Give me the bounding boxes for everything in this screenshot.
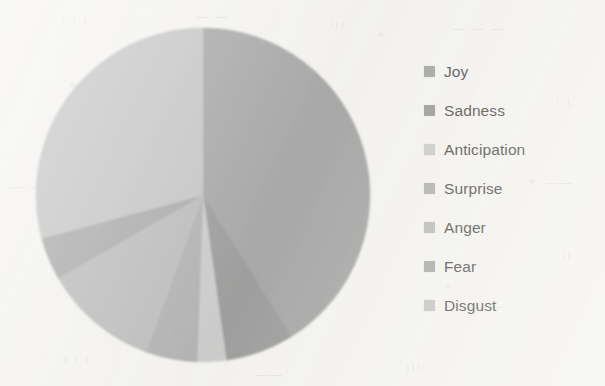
legend-item-label: Surprise xyxy=(444,181,503,197)
legend-swatch-icon xyxy=(424,183,435,194)
legend-swatch-icon xyxy=(424,261,435,272)
legend-item-label: Sadness xyxy=(444,103,505,119)
legend-item-label: Anticipation xyxy=(444,142,525,158)
legend-item-label: Joy xyxy=(444,64,468,80)
legend-item-label: Disgust xyxy=(444,298,496,314)
pie-slice-group xyxy=(36,28,370,362)
legend-swatch-icon xyxy=(424,222,435,233)
legend-item-label: Anger xyxy=(444,220,486,236)
legend-item-label: Fear xyxy=(444,259,476,275)
legend-item[interactable]: Sadness xyxy=(424,91,599,130)
bleedthrough-mark: — — — xyxy=(452,22,505,36)
legend-item[interactable]: Surprise xyxy=(424,169,599,208)
chart-page: ı ı ı— —ııı— — —ı ı——ıı— —ı ı ı——ııı— — … xyxy=(0,0,605,386)
pie-chart-area xyxy=(0,0,420,386)
legend-item[interactable]: Joy xyxy=(424,52,599,91)
legend-swatch-icon xyxy=(424,105,435,116)
legend-swatch-icon xyxy=(424,300,435,311)
legend-item[interactable]: Anticipation xyxy=(424,130,599,169)
pie-chart-svg xyxy=(0,0,420,386)
legend-swatch-icon xyxy=(424,144,435,155)
chart-legend: JoySadnessAnticipationSurpriseAngerFearD… xyxy=(424,52,599,325)
legend-item[interactable]: Disgust xyxy=(424,286,599,325)
legend-item[interactable]: Anger xyxy=(424,208,599,247)
legend-swatch-icon xyxy=(424,66,435,77)
legend-item[interactable]: Fear xyxy=(424,247,599,286)
